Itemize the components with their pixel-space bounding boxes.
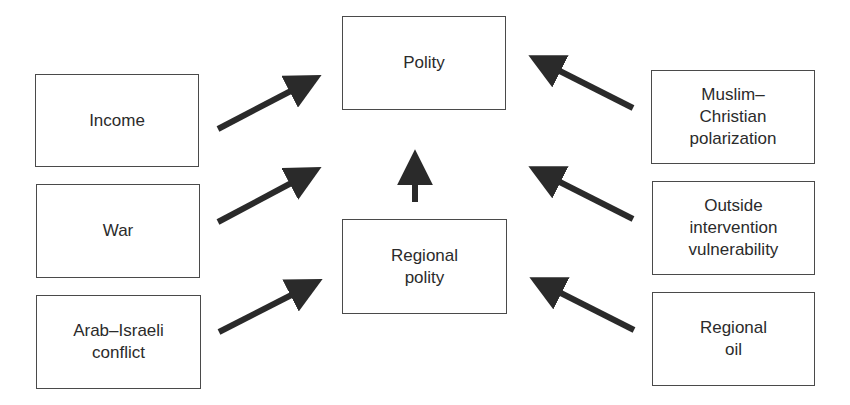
node-income: Income <box>35 74 199 167</box>
diagram-canvas: Income War Arab–Israeli conflict Polity … <box>0 0 850 405</box>
node-regional-polity: Regional polity <box>342 219 507 314</box>
node-war: War <box>36 184 200 278</box>
arrow-outside-intervention-to-polity <box>538 171 633 219</box>
node-regional-oil: Regional oil <box>652 292 815 386</box>
arrow-arab-israeli-to-regional-polity <box>219 284 313 332</box>
node-arab-israeli-conflict: Arab–Israeli conflict <box>36 295 201 389</box>
arrow-regional-oil-to-regional-polity <box>539 282 634 330</box>
arrow-income-to-polity <box>218 80 312 129</box>
arrow-muslim-christian-to-polity <box>538 60 633 108</box>
arrow-war-to-polity <box>218 172 312 222</box>
node-polity: Polity <box>342 16 506 110</box>
node-outside-intervention-vulnerability: Outside intervention vulnerability <box>652 181 815 275</box>
node-muslim-christian-polarization: Muslim– Christian polarization <box>651 70 815 164</box>
